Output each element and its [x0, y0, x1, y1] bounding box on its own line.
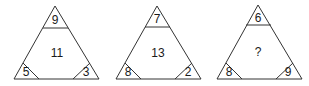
triangle-2-top: 7	[154, 12, 161, 26]
triangle-3-bottom-left: 8	[226, 65, 233, 79]
puzzle-diagram: 9 11 5 3 7 13 8 2 6 ? 8 9	[0, 0, 309, 86]
triangle-1-center: 11	[51, 46, 64, 60]
triangle-2-center: 13	[151, 46, 165, 60]
triangle-1-bottom-right: 3	[83, 65, 90, 79]
triangle-2-bottom-right: 2	[185, 65, 192, 79]
triangle-1-top: 9	[52, 13, 59, 27]
triangle-2-bottom-left: 8	[125, 65, 132, 79]
triangle-3-bottom-right: 9	[285, 65, 292, 79]
triangle-3-top: 6	[255, 11, 262, 25]
triangle-3-center: ?	[255, 45, 262, 59]
triangle-1-bottom-left: 5	[23, 65, 30, 79]
